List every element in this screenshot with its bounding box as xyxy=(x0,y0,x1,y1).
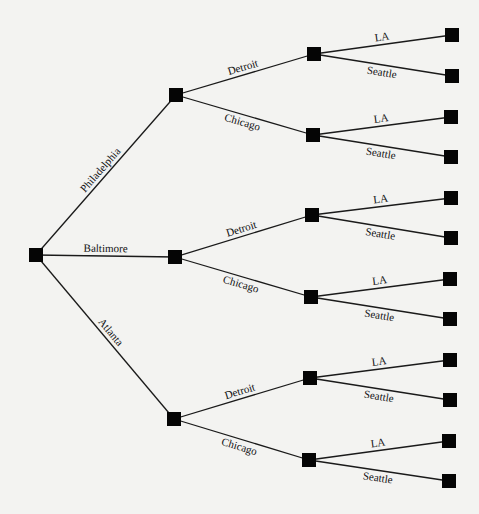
tree-edge xyxy=(174,419,309,460)
leaf-node-la xyxy=(444,191,458,205)
leaf-node-la xyxy=(442,434,456,448)
leaf-node-la xyxy=(444,110,458,124)
edge-label: Baltimore xyxy=(84,242,128,255)
tree-edge xyxy=(175,257,311,297)
tree-edge xyxy=(36,255,175,257)
leaf-node-seattle xyxy=(442,474,456,488)
root-node xyxy=(29,248,43,262)
leaf-node-seattle xyxy=(444,231,458,245)
tree-nodes xyxy=(29,28,459,488)
node-atlanta-chicago xyxy=(302,453,316,467)
tree-edge xyxy=(176,95,313,135)
tree-edge xyxy=(36,255,174,419)
node-baltimore-detroit xyxy=(305,208,319,222)
edge-label: LA xyxy=(371,273,387,287)
leaf-node-seattle xyxy=(445,69,459,83)
node-philadelphia-detroit xyxy=(307,47,321,61)
node-atlanta xyxy=(167,412,181,426)
leaf-node-la xyxy=(445,28,459,42)
edge-label: LA xyxy=(373,192,389,206)
edge-label: Detroit xyxy=(224,218,257,239)
decision-tree: PhiladelphiaBaltimoreAtlantaDetroitChica… xyxy=(0,0,479,514)
edge-label: Detroit xyxy=(223,381,256,401)
tree-labels: PhiladelphiaBaltimoreAtlantaDetroitChica… xyxy=(77,30,397,486)
leaf-node-seattle xyxy=(443,393,457,407)
edge-label: Philadelphia xyxy=(77,145,122,194)
node-atlanta-detroit xyxy=(303,371,317,385)
node-baltimore-chicago xyxy=(304,290,318,304)
node-philadelphia xyxy=(169,88,183,102)
leaf-node-la xyxy=(443,353,457,367)
edge-label: Detroit xyxy=(226,57,259,77)
leaf-node-seattle xyxy=(443,312,457,326)
edge-label: LA xyxy=(370,436,386,450)
node-philadelphia-chicago xyxy=(306,128,320,142)
leaf-node-la xyxy=(443,272,457,286)
leaf-node-seattle xyxy=(444,150,458,164)
node-baltimore xyxy=(168,250,182,264)
edge-label: LA xyxy=(371,354,387,368)
edge-label: LA xyxy=(374,30,390,44)
edge-label: LA xyxy=(373,111,389,125)
tree-edge xyxy=(36,95,176,255)
tree-edges xyxy=(36,35,452,481)
